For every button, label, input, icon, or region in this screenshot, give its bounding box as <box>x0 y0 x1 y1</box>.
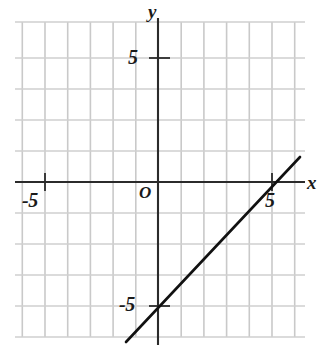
y-axis-label: y <box>148 2 156 21</box>
x-tick-label-positive-five: 5 <box>265 190 275 210</box>
x-tick-label-negative-five: -5 <box>22 190 38 210</box>
x-axis-label: x <box>307 173 317 192</box>
y-tick-label-positive-five: 5 <box>128 47 138 67</box>
grid-lines-horizontal <box>15 22 305 337</box>
y-tick-label-negative-five: -5 <box>119 294 135 314</box>
plotted-line-series <box>126 157 300 342</box>
origin-label: O <box>139 184 151 201</box>
graph-canvas <box>0 0 322 349</box>
coordinate-plane-graph: y x O -5 5 5 -5 <box>0 0 322 349</box>
